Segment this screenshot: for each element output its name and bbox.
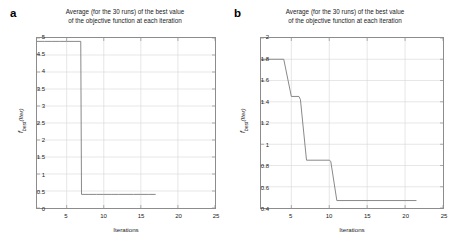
x-tick-label: 25 <box>206 213 226 219</box>
panel-b-svg <box>261 38 443 208</box>
y-tick-label: 0.6 <box>243 185 269 191</box>
panel-a: a Average (for the 30 runs) of the best … <box>0 0 228 247</box>
x-tick-label: 20 <box>169 213 189 219</box>
y-tick-label: 4.5 <box>19 51 45 57</box>
y-tick-label: 2 <box>243 34 269 40</box>
panel-b-x-axis-title: Iterations <box>260 226 444 233</box>
panel-a-title-line2: of the objective function at each iterat… <box>30 16 220 25</box>
panel-a-y-axis-title-main: f <box>17 131 24 133</box>
y-tick-label: 1.6 <box>243 77 269 83</box>
panel-letter-a: a <box>10 8 16 20</box>
x-tick-label: 15 <box>131 213 151 219</box>
y-tick-label: 1.5 <box>19 154 45 160</box>
panel-b-y-axis-title-sub: best <box>243 122 249 131</box>
panel-a-x-axis-title: Iterations <box>36 226 216 233</box>
panel-a-title-line1: Average (for the 30 runs) of the best va… <box>30 7 220 16</box>
y-tick-label: 0.5 <box>19 189 45 195</box>
panel-b-title: Average (for the 30 runs) of the best va… <box>250 7 440 25</box>
x-tick-label: 5 <box>56 213 76 219</box>
data-series-line <box>37 41 156 194</box>
y-tick-label: 0.4 <box>243 206 269 212</box>
panel-a-title: Average (for the 30 runs) of the best va… <box>30 7 220 25</box>
y-tick-label: 5 <box>19 34 45 40</box>
panel-a-y-axis-title-sub: best <box>21 122 27 131</box>
y-tick-label: 4 <box>19 68 45 74</box>
panel-a-y-axis-title-paren: (Iter) <box>17 108 24 121</box>
y-tick-label: 0.8 <box>243 163 269 169</box>
panel-b-y-axis-title-paren: (Iter) <box>239 108 246 121</box>
y-tick-label: 0 <box>19 206 45 212</box>
panel-b-plot-area <box>260 37 444 209</box>
panel-b-title-line1: Average (for the 30 runs) of the best va… <box>250 7 440 16</box>
panel-a-svg <box>37 38 215 208</box>
panel-a-y-axis-title: fbest(Iter) <box>17 91 26 151</box>
panel-a-plot-area <box>36 37 216 209</box>
panel-b: b Average (for the 30 runs) of the best … <box>228 0 456 247</box>
figure-two-panel-convergence: a Average (for the 30 runs) of the best … <box>0 0 456 247</box>
x-tick-label: 20 <box>396 213 416 219</box>
x-tick-label: 10 <box>319 213 339 219</box>
y-tick-label: 1.8 <box>243 56 269 62</box>
panel-b-title-line2: of the objective function at each iterat… <box>250 16 440 25</box>
panel-b-y-axis-title: fbest(Iter) <box>239 91 248 151</box>
panel-letter-b: b <box>234 8 241 20</box>
x-tick-label: 5 <box>281 213 301 219</box>
panel-b-y-axis-title-main: f <box>239 131 246 133</box>
x-tick-label: 15 <box>357 213 377 219</box>
x-tick-label: 10 <box>94 213 114 219</box>
x-tick-label: 25 <box>434 213 454 219</box>
y-tick-label: 1 <box>19 172 45 178</box>
